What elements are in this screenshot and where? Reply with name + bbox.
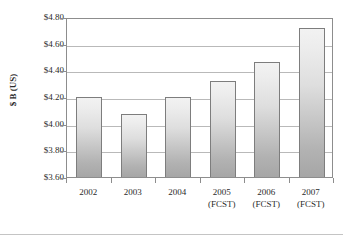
x-axis-tick-label-year: 2005 xyxy=(213,187,231,197)
x-axis-tick-label: 2007(FCST) xyxy=(281,186,341,210)
x-axis-tick-mark xyxy=(244,178,245,183)
gridline xyxy=(67,72,332,73)
y-axis-tick-label: $4.20 xyxy=(14,92,64,102)
y-axis-tick-label: $4.60 xyxy=(14,39,64,49)
bar xyxy=(76,97,102,177)
bottom-separator-rule xyxy=(0,234,343,235)
x-axis-tick-mark xyxy=(66,178,67,183)
bar xyxy=(254,62,280,177)
plot-area xyxy=(66,18,333,178)
x-axis-tick-label-year: 2007 xyxy=(302,187,320,197)
x-axis-tick-label-year: 2003 xyxy=(124,187,142,197)
x-axis-tick-label-year: 2006 xyxy=(257,187,275,197)
x-axis-tick-mark xyxy=(111,178,112,183)
gridline xyxy=(67,152,332,153)
x-axis-tick-mark xyxy=(289,178,290,183)
x-axis-tick-label-year: 2002 xyxy=(79,187,97,197)
x-axis-tick-mark xyxy=(333,178,334,183)
gridline xyxy=(67,46,332,47)
gridline xyxy=(67,126,332,127)
y-axis-tick-label: $4.80 xyxy=(14,12,64,22)
y-axis-tick-label: $4.00 xyxy=(14,119,64,129)
x-axis-tick-mark xyxy=(155,178,156,183)
bar xyxy=(210,81,236,177)
bar xyxy=(299,28,325,177)
x-axis-tick-label-year: 2004 xyxy=(168,187,186,197)
x-axis-tick-label-forecast: (FCST) xyxy=(281,198,341,210)
x-axis-tick-mark xyxy=(200,178,201,183)
bar xyxy=(165,97,191,177)
gridline xyxy=(67,99,332,100)
y-axis-tick-label: $3.60 xyxy=(14,172,64,182)
y-axis-tick-label: $4.40 xyxy=(14,65,64,75)
bar xyxy=(121,114,147,177)
y-axis-tick-label: $3.80 xyxy=(14,145,64,155)
bar-chart-figure: $ B (US) $4.80$4.60$4.40$4.20$4.00$3.80$… xyxy=(0,0,343,242)
